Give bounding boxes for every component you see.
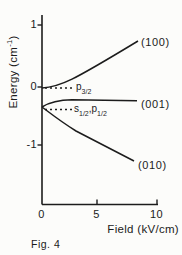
state-label-001: (001) [141,99,170,110]
s12p12-separator: ,p [89,103,97,114]
y-axis-title: Energy (cm-1) [6,35,19,108]
x-axis-title: Field (kV/cm) [107,224,179,236]
p12-subscript: 1/2 [97,110,107,117]
state-label-010: (010) [138,160,167,171]
y-tick-label-neg1: -1 [21,139,37,150]
y-tick-label-1: 1 [27,19,37,30]
x-tick-label-10: 10 [148,209,165,220]
level-label-s12p12: s1/2,p1/2 [74,104,107,116]
y-axis-title-close: ) [7,35,19,39]
y-tick-label-0: 0 [25,81,37,92]
x-tick-label-5: 5 [90,209,103,220]
figure-caption: Fig. 4 [31,239,60,250]
state-label-100: (100) [141,37,170,48]
x-tick-label-0: 0 [35,209,48,220]
stark-shift-figure: Energy (cm-1) 1 0 -1 0 5 10 Field (kV/cm… [0,0,182,255]
p32-base: p [76,81,82,92]
y-axis-title-exponent: -1 [5,40,14,47]
level-label-p32: p3/2 [76,82,91,94]
s12-subscript: 1/2 [79,110,89,117]
curve-100 [42,41,138,88]
y-axis-title-text: Energy (cm [7,47,19,109]
p32-subscript: 3/2 [82,88,92,95]
